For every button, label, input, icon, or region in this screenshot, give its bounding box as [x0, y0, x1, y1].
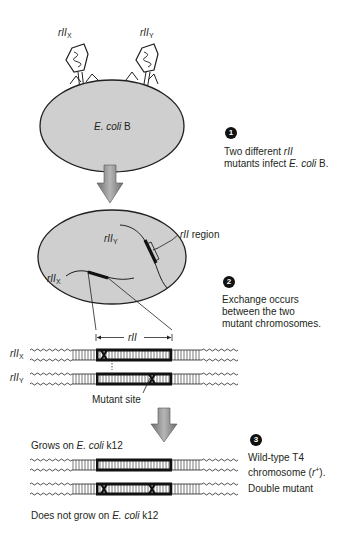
step-2-badge: 2	[223, 276, 235, 288]
step-2-text: Exchange occurs between the two mutant c…	[222, 294, 321, 330]
chromosome-double-mutant	[30, 483, 238, 496]
phage-label-rIIX: rIIX	[58, 27, 72, 39]
chromosome-rIIX-detail	[30, 349, 238, 362]
does-not-grow-label: Does not grow on E. coli k12	[31, 510, 159, 521]
rII-region-bottom	[96, 383, 172, 386]
strand-end-wavy	[202, 483, 238, 485]
rII-region-edge	[170, 484, 173, 494]
mutant-site-label: Mutant site	[92, 394, 141, 405]
step-1-line2-italic: E. coli	[289, 158, 316, 169]
exchange-label-rIIY: rIIY	[10, 372, 24, 384]
chromosome-rIIY-detail	[30, 373, 238, 386]
step-3-line2-post: ).	[319, 467, 325, 478]
step-2-line2: between the two	[222, 306, 295, 317]
step-1-badge: 1	[225, 127, 237, 139]
phage-head	[66, 44, 88, 72]
strand-end-wavy	[202, 373, 238, 375]
down-arrow-icon	[151, 408, 177, 442]
cell1-label: E. coli B	[94, 121, 131, 132]
strand-end-wavy	[30, 359, 72, 361]
strand-end-wavy	[30, 373, 72, 375]
strand-end-wavy	[202, 383, 238, 385]
rII-region-edge	[96, 484, 99, 494]
step-2-line1: Exchange occurs	[222, 294, 299, 305]
grows-label: Grows on E. coli k12	[31, 440, 123, 451]
rII-region-edge	[170, 350, 173, 360]
rII-region-top	[96, 373, 172, 376]
rII-region-edge	[96, 374, 99, 384]
strand-end-wavy	[30, 349, 72, 351]
rII-region-top	[96, 459, 172, 462]
strand-end-wavy	[30, 469, 72, 471]
strand-end-wavy	[30, 459, 72, 461]
rII-region-edge	[170, 460, 173, 470]
ecoli-cell-2	[38, 210, 186, 304]
strand-end-wavy	[202, 349, 238, 351]
rII-region-label: rII region	[180, 229, 219, 240]
rII-span-label: rII	[128, 332, 137, 343]
step-3-line1: Wild-type T4	[248, 452, 304, 463]
rII-region-edge	[96, 350, 99, 360]
strand-end-wavy	[202, 493, 238, 495]
strand-end-wavy	[202, 459, 238, 461]
rII-region-edge	[170, 374, 173, 384]
step-3-text: Wild-type T4 chromosome (r+).	[248, 452, 325, 479]
chromosome-wild-type	[30, 459, 238, 472]
rII-region-bottom	[96, 469, 172, 472]
step-3-line2-pre: chromosome (	[248, 467, 312, 478]
step-2-line3: mutant chromosomes.	[222, 318, 321, 329]
strand-end-wavy	[202, 469, 238, 471]
double-mutant-label: Double mutant	[248, 483, 313, 494]
step-1-line2: mutants infect	[224, 158, 289, 169]
exchange-label-rIIX: rIIX	[10, 348, 24, 360]
strand-end-wavy	[30, 383, 72, 385]
strand-end-wavy	[30, 493, 72, 495]
strand-end-wavy	[30, 483, 72, 485]
step-3-badge: 3	[250, 434, 262, 446]
phage-label-rIIY: rIIY	[140, 27, 154, 39]
phage-head	[136, 44, 158, 72]
step-1-line2-rest: B.	[316, 158, 328, 169]
step-1-line1-italic: rII	[284, 146, 293, 157]
strand-end-wavy	[202, 359, 238, 361]
step-1-text: Two different rII mutants infect E. coli…	[224, 146, 329, 170]
step-1-line1: Two different	[224, 146, 284, 157]
rII-region-edge	[96, 460, 99, 470]
